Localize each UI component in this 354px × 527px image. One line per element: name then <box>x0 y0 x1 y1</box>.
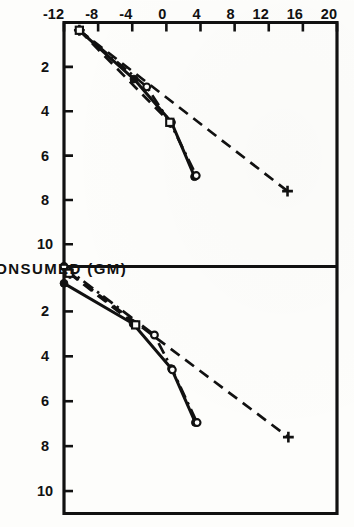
filled-circle-marker <box>60 279 68 287</box>
y-tick-label: 12 <box>253 5 269 21</box>
y-tick-label: -4 <box>119 5 132 21</box>
x-tick-label: 10 <box>37 483 53 499</box>
x-tick-label: 6 <box>41 393 49 409</box>
x-tick-label: 10 <box>37 236 53 252</box>
x-tick-label: 6 <box>41 147 49 163</box>
x-axis-title: PROTEIN CONSUMED (GM) <box>0 259 127 276</box>
rotated-figure-container: 201612840-4-8-12246810246810 PROTEIN CON… <box>0 0 354 527</box>
x-tick-label: 4 <box>41 348 49 364</box>
series-line-series-plus-dashed <box>79 30 287 191</box>
y-tick-label: -8 <box>85 5 98 21</box>
x-tick-label: 8 <box>41 438 49 454</box>
data-series <box>64 30 288 437</box>
open-circle-marker <box>151 331 158 338</box>
y-tick-label: 8 <box>227 5 235 21</box>
y-tick-label: 4 <box>192 5 200 21</box>
open-circle-marker <box>193 172 200 179</box>
open-circle-marker <box>194 419 201 426</box>
open-circle-marker <box>169 366 176 373</box>
x-tick-label: 8 <box>41 191 49 207</box>
series-line-series-filled-circle-solid <box>79 30 194 176</box>
square-marker <box>76 26 83 33</box>
open-circle-marker <box>143 83 150 90</box>
filled-circle-marker <box>130 75 138 83</box>
y-tick-label: 20 <box>321 5 337 21</box>
series-line-series-open-circle-dashdot <box>79 30 196 175</box>
x-tick-label: 4 <box>41 103 49 119</box>
tick-labels: 201612840-4-8-12246810246810 <box>37 5 337 499</box>
y-tick-label: 0 <box>158 5 166 21</box>
plus-marker <box>283 431 294 442</box>
series-line-series-open-circle-dashdot <box>64 266 197 422</box>
figure: 201612840-4-8-12246810246810 PROTEIN CON… <box>0 0 354 527</box>
y-tick-label: 16 <box>287 5 303 21</box>
square-marker <box>132 321 139 328</box>
x-tick-label: 2 <box>41 303 49 319</box>
y-tick-label: -12 <box>43 5 64 21</box>
chart-canvas: 201612840-4-8-12246810246810 PROTEIN CON… <box>0 0 354 527</box>
series-line-series-square-dashed <box>69 273 136 325</box>
square-marker <box>166 118 173 125</box>
x-tick-label: 2 <box>41 58 49 74</box>
series-line-series-square-dashed <box>79 30 169 122</box>
